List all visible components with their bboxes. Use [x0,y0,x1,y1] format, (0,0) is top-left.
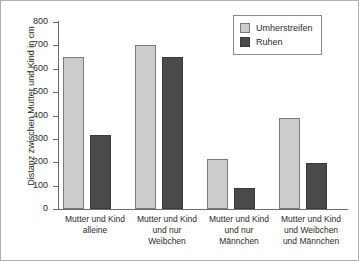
category-label-line: Mutter und Kind [56,214,134,225]
bar [90,135,111,209]
legend-item[interactable]: Ruhen [240,35,313,49]
bar [279,118,300,209]
y-axis-tick [53,22,58,23]
y-axis-title: Distanz zwischen Mutter und Kind in cm [26,6,36,206]
category-label-line: und nur [128,225,206,236]
y-axis-tick-label: 400 [8,111,48,120]
bar [162,57,183,209]
chart-legend: UmherstreifenRuhen [233,15,322,55]
category-label-line: Weibchen [128,236,206,247]
category-label-line: alleine [56,225,134,236]
bar [234,188,255,209]
y-axis-tick-label: 700 [8,40,48,49]
category-label: Mutter und Kindund Weibchenund Männchen [272,214,350,247]
bar [306,163,327,209]
y-axis-tick [53,139,58,140]
y-axis-tick [53,69,58,70]
category-label-line: Männchen [200,236,278,247]
y-axis-tick [53,162,58,163]
chart-figure: Distanz zwischen Mutter und Kind in cm 8… [0,0,359,261]
legend-item[interactable]: Umherstreifen [240,21,313,35]
category-label-line: und nur [200,225,278,236]
category-label: Mutter und Kindund nurWeibchen [128,214,206,247]
legend-item-label: Ruhen [256,37,283,47]
category-label: Mutter und Kindalleine [56,214,134,236]
y-axis-tick-label: 800 [8,17,48,26]
y-axis-tick-label: 500 [8,87,48,96]
category-label-line: und Männchen [272,236,350,247]
category-label-line: Mutter und Kind [128,214,206,225]
category-label-line: und Weibchen [272,225,350,236]
legend-swatch-icon [240,23,250,33]
y-axis-tick-label: 0 [8,204,48,213]
y-axis-tick [53,92,58,93]
bar-group [59,22,131,209]
category-label-line: Mutter und Kind [200,214,278,225]
category-label-line: Mutter und Kind [272,214,350,225]
y-axis-tick-label: 300 [8,134,48,143]
y-axis-tick [53,209,58,210]
y-axis-tick-label: 600 [8,64,48,73]
y-axis-tick-label: 200 [8,157,48,166]
y-axis-tick [53,45,58,46]
bar [135,45,156,209]
legend-item-label: Umherstreifen [256,23,313,33]
bar-group [131,22,203,209]
y-axis-tick [53,186,58,187]
x-axis-line [58,209,348,210]
bar [63,57,84,209]
category-label: Mutter und Kindund nurMännchen [200,214,278,247]
bar [207,159,228,209]
y-axis-tick-label: 100 [8,181,48,190]
legend-swatch-icon [240,37,250,47]
y-axis-tick [53,116,58,117]
